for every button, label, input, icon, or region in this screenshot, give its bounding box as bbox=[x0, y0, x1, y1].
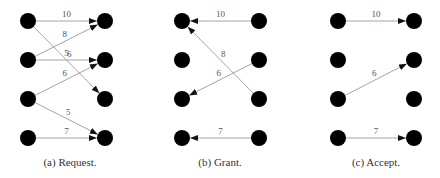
edge-arrow bbox=[188, 27, 254, 94]
edge-weight-label: 7 bbox=[218, 126, 223, 136]
left-node-1 bbox=[330, 52, 346, 68]
left-node-2 bbox=[174, 91, 190, 107]
caption-accept: (c) Accept. bbox=[306, 156, 440, 168]
left-node-0 bbox=[174, 13, 190, 29]
left-node-0 bbox=[330, 13, 346, 29]
edge-weight-label: 6 bbox=[372, 68, 377, 78]
edge-weight-label: 8 bbox=[221, 49, 226, 59]
left-node-1 bbox=[174, 52, 190, 68]
edge-weight-label: 10 bbox=[62, 9, 72, 19]
right-node-3 bbox=[251, 130, 267, 146]
edge-weight-label: 7 bbox=[374, 126, 379, 136]
right-node-2 bbox=[406, 91, 422, 107]
caption-grant: (b) Grant. bbox=[150, 156, 290, 168]
panel-request: 10865657 bbox=[20, 9, 113, 146]
figure-canvas: 10865657 10867 1067 bbox=[0, 0, 440, 178]
panel-accept: 1067 bbox=[330, 9, 422, 146]
bipartite-matching-figure: 10865657 10867 1067 (a) Request. (b) Gra… bbox=[0, 0, 440, 178]
right-node-1 bbox=[251, 52, 267, 68]
edge-weight-label: 7 bbox=[64, 126, 69, 136]
edge-weight-label: 8 bbox=[62, 29, 67, 39]
edge-arrow bbox=[190, 63, 253, 95]
right-node-2 bbox=[97, 91, 113, 107]
right-node-0 bbox=[97, 13, 113, 29]
right-node-2 bbox=[251, 91, 267, 107]
right-node-1 bbox=[97, 52, 113, 68]
right-node-1 bbox=[406, 52, 422, 68]
left-node-0 bbox=[20, 13, 36, 29]
right-node-3 bbox=[97, 130, 113, 146]
left-node-1 bbox=[20, 52, 36, 68]
edge-weight-label: 10 bbox=[216, 9, 226, 19]
edge-weight-label: 5 bbox=[66, 107, 71, 117]
right-node-0 bbox=[406, 13, 422, 29]
right-node-3 bbox=[406, 130, 422, 146]
panel-grant: 10867 bbox=[174, 9, 267, 146]
left-node-3 bbox=[174, 130, 190, 146]
right-node-0 bbox=[251, 13, 267, 29]
left-node-3 bbox=[330, 130, 346, 146]
edge-weight-label: 10 bbox=[372, 9, 382, 19]
left-node-2 bbox=[330, 91, 346, 107]
left-node-2 bbox=[20, 91, 36, 107]
left-node-3 bbox=[20, 130, 36, 146]
edge-weight-label: 5 bbox=[64, 48, 69, 58]
caption-request: (a) Request. bbox=[0, 156, 140, 168]
edge-weight-label: 6 bbox=[216, 68, 221, 78]
edge-weight-label: 6 bbox=[62, 68, 67, 78]
